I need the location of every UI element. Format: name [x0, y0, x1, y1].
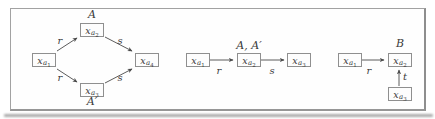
annotation-B: B — [388, 38, 412, 50]
node-d3-xa1: xa1 — [338, 53, 362, 67]
node-d3-xa2: xa2 — [388, 53, 412, 67]
edge-label-d1-r-bottom: r — [54, 72, 66, 84]
node-label-subsub: 2 — [403, 62, 407, 68]
edge-label-d1-s-top: s — [114, 35, 126, 47]
bottom-rule — [4, 114, 433, 117]
node-label-base: x — [242, 55, 247, 66]
node-label-base: x — [393, 89, 398, 100]
edge-label-d1-r-top: r — [54, 35, 66, 47]
node-label-subsub: 2 — [252, 62, 256, 68]
node-d1-xa4: xa4 — [135, 53, 159, 67]
node-d2-xa1: xa1 — [186, 53, 210, 67]
node-label-subsub: 4 — [150, 62, 154, 68]
node-d1-xa2: xa2 — [80, 23, 104, 37]
edge-label-d1-s-bottom: s — [114, 72, 126, 84]
node-label-base: x — [292, 55, 297, 66]
node-d2-xa2: xa2 — [237, 53, 261, 67]
annotation-A-prime: A′ — [80, 96, 104, 108]
edge-label-d3-r: r — [363, 65, 375, 77]
node-label-base: x — [343, 55, 348, 66]
node-d3-xa3: xa3 — [388, 87, 412, 101]
edge-label-d2-s: s — [266, 65, 278, 77]
node-label-base: x — [191, 55, 196, 66]
edge-label-d2-r: r — [213, 65, 225, 77]
edge-label-d3-t: t — [399, 71, 411, 83]
node-d2-xa3: xa3 — [287, 53, 311, 67]
node-label-subsub: 1 — [201, 62, 205, 68]
node-label-base: x — [140, 55, 145, 66]
node-label-base: x — [393, 55, 398, 66]
node-label-subsub: 3 — [403, 96, 407, 102]
node-d1-xa1: xa1 — [32, 53, 56, 67]
annotation-A: A — [80, 9, 104, 21]
node-label-base: x — [85, 85, 90, 96]
figure-frame — [10, 8, 426, 111]
node-label-base: x — [85, 25, 90, 36]
annotation-A-A-prime: A, A′ — [225, 40, 273, 52]
node-label-subsub: 1 — [47, 62, 51, 68]
node-label-subsub: 1 — [353, 62, 357, 68]
node-label-base: x — [37, 55, 42, 66]
node-label-subsub: 2 — [95, 32, 99, 38]
node-label-subsub: 3 — [302, 62, 306, 68]
